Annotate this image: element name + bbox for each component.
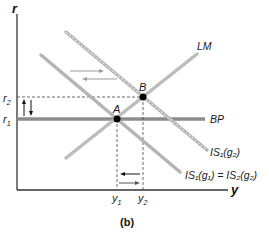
is-shifted-label: IS₁(g₂) xyxy=(210,146,240,158)
y-axis-label: r xyxy=(12,1,18,16)
is-original-label: IS₁(g₁) = IS₂(g₂) xyxy=(185,169,257,181)
x-axis-label: y xyxy=(230,182,239,197)
left-shift-arrow xyxy=(82,77,117,81)
r2-label: r2 xyxy=(3,92,11,106)
point-b-label: B xyxy=(139,81,146,93)
figure-caption: (b) xyxy=(120,216,134,228)
is-original-curve xyxy=(41,55,180,172)
point-a-label: A xyxy=(112,103,120,115)
down-arrow xyxy=(29,100,33,116)
lm-label: LM xyxy=(197,40,212,52)
lm-curve xyxy=(66,54,197,158)
right-output-arrow xyxy=(119,181,140,185)
point-b xyxy=(140,94,147,101)
up-arrow xyxy=(22,99,26,116)
right-shift-arrow xyxy=(70,69,104,73)
bp-label: BP xyxy=(210,113,224,125)
left-output-arrow xyxy=(120,172,140,176)
r1-label: r1 xyxy=(3,113,11,127)
y2-label: y2 xyxy=(137,192,148,206)
point-a xyxy=(114,116,121,123)
is-lm-bp-diagram: r y A B LM BP IS₁(g₂) IS₁(g₁) = IS₂(g₂) … xyxy=(0,0,269,232)
y1-label: y1 xyxy=(111,192,122,206)
